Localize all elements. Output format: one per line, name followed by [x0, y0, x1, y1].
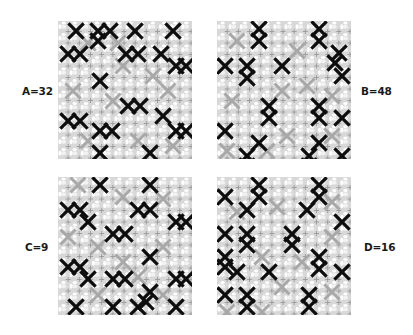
grid-panel-a — [58, 21, 192, 159]
panel-label-a: A=32 — [22, 85, 53, 97]
grid-panel-b — [217, 21, 351, 159]
lattice-grid-a — [58, 21, 192, 159]
grid-panel-d — [217, 177, 351, 315]
panel-label-d: D=16 — [364, 241, 395, 253]
lattice-grid-c — [58, 177, 192, 315]
panel-label-b: B=48 — [361, 85, 392, 97]
lattice-grid-d — [217, 177, 351, 315]
lattice-grid-b — [217, 21, 351, 159]
grid-panel-c — [58, 177, 192, 315]
panel-label-c: C=9 — [25, 241, 48, 253]
